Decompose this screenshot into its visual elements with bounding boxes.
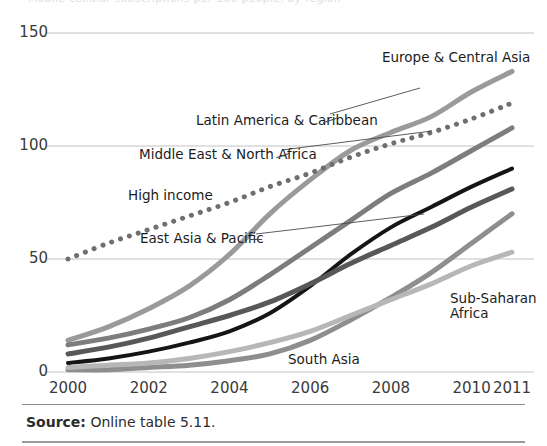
- y-tick-label-150: 150: [8, 23, 48, 41]
- clipped-header-label: Mobile cellular subscriptions per 100 pe…: [0, 0, 547, 5]
- figure-container: Mobile cellular subscriptions per 100 pe…: [0, 0, 547, 446]
- annotation-south-asia: South Asia: [288, 352, 360, 367]
- annotation-middle-east-and-north-africa: Middle East & North Africa: [139, 147, 317, 162]
- x-tick-label-2006: 2006: [280, 379, 340, 397]
- y-tick-label-0: 0: [8, 362, 48, 380]
- y-tick-label-50: 50: [8, 249, 48, 267]
- x-tick-label-2008: 2008: [361, 379, 421, 397]
- x-tick-label-2004: 2004: [199, 379, 259, 397]
- annotation-east-asia-and-pacific: East Asia & Pacific: [140, 231, 264, 246]
- plot-area: [0, 12, 547, 400]
- annotation-europe-and-central-asia: Europe & Central Asia: [382, 50, 530, 65]
- y-tick-label-100: 100: [8, 136, 48, 154]
- series-line-east-asia-and-pacific: [68, 189, 512, 354]
- source-label: Source:: [26, 414, 86, 430]
- annotation-sub-saharan-africa: Sub-SaharanAfrica: [450, 291, 537, 321]
- line-chart: [0, 12, 547, 400]
- annotation-tick-2: [250, 239, 262, 240]
- source-divider-bottom: [22, 441, 525, 443]
- annotation-line-2: Africa: [450, 306, 537, 321]
- clipped-header-text: Mobile cellular subscriptions per 100 pe…: [0, 0, 547, 12]
- x-tick-label-2000: 2000: [38, 379, 98, 397]
- source-note: Source: Online table 5.11.: [26, 414, 216, 430]
- source-divider-top: [22, 404, 525, 405]
- x-tick-label-2002: 2002: [119, 379, 179, 397]
- annotation-high-income: High income: [128, 188, 213, 203]
- annotation-line-1: Sub-Saharan: [450, 291, 537, 306]
- x-tick-label-2011: 2011: [482, 379, 542, 397]
- source-value: Online table 5.11.: [90, 414, 215, 430]
- annotation-latin-america-and-caribbean: Latin America & Caribbean: [196, 113, 378, 128]
- annotation-leader-line-0: [330, 88, 420, 114]
